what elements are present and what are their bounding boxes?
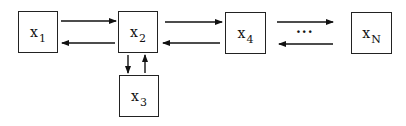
node-x2: x2 bbox=[118, 11, 158, 53]
node-x4: x4 bbox=[225, 12, 266, 54]
ellipsis: ··· bbox=[296, 24, 314, 40]
node-subscript: 2 bbox=[139, 32, 146, 45]
node-label: x bbox=[30, 24, 38, 40]
node-subscript: 4 bbox=[246, 33, 253, 46]
node-label: x bbox=[130, 24, 138, 40]
node-subscript: 3 bbox=[140, 96, 147, 109]
node-x3: x3 bbox=[119, 75, 159, 117]
node-label: x bbox=[131, 88, 139, 104]
node-xN: xN bbox=[351, 12, 392, 54]
node-x1: x1 bbox=[18, 11, 58, 53]
node-subscript: N bbox=[371, 33, 381, 46]
node-label: x bbox=[362, 25, 370, 41]
node-subscript: 1 bbox=[39, 32, 46, 45]
edges-layer bbox=[0, 0, 406, 126]
node-label: x bbox=[238, 25, 246, 41]
